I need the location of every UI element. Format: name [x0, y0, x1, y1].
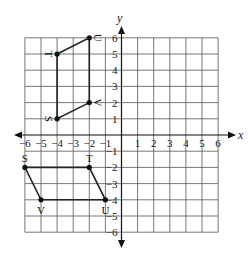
y-tick-label: 5 [112, 48, 118, 60]
x-tick-label: −2 [83, 137, 95, 149]
y-tick-label: −2 [106, 161, 118, 173]
x-axis-label: x [237, 128, 244, 142]
y-axis-label: y [116, 11, 123, 25]
vertex-point [103, 197, 108, 202]
y-axis-arrow-down-icon [118, 240, 125, 248]
vertex-label-S: S [22, 152, 28, 164]
vertex-point [87, 165, 92, 170]
coordinate-plane: x y −6−5−4−3−2−1123456654321−1−2−3−4−5−6… [0, 0, 251, 263]
x-tick-label: 4 [183, 137, 189, 149]
y-tick-label: 4 [112, 64, 118, 76]
vertex-point [38, 197, 43, 202]
y-tick-label: −3 [106, 178, 118, 190]
vertex-point [87, 100, 92, 105]
y-tick-label: −6 [106, 226, 118, 238]
y-tick-label: −1 [106, 145, 118, 157]
vertex-label-T: T [43, 51, 55, 58]
vertex-point [22, 165, 27, 170]
vertex-label-U: U [101, 204, 109, 216]
x-tick-label: −3 [67, 137, 79, 149]
vertex-point [87, 35, 92, 40]
x-axis-arrow-right-icon [228, 132, 236, 139]
x-tick-label: 1 [135, 137, 141, 149]
x-tick-label: 6 [215, 137, 221, 149]
x-tick-label: 3 [167, 137, 173, 149]
x-tick-label: −6 [19, 137, 31, 149]
vertex-label-V: V [92, 99, 104, 107]
x-tick-label: 5 [199, 137, 205, 149]
vertex-label-V: V [37, 204, 45, 216]
y-tick-label: 2 [112, 97, 118, 109]
x-tick-label: −5 [35, 137, 47, 149]
vertex-label-U: U [92, 34, 104, 42]
x-tick-label: 2 [151, 137, 157, 149]
vertex-label-S: S [43, 116, 55, 122]
upper-parallelogram: STUV [43, 34, 104, 122]
y-tick-label: 1 [112, 113, 118, 125]
lower-parallelogram: STUV [22, 152, 110, 215]
y-axis-arrow-up-icon [118, 26, 125, 34]
y-tick-label: 6 [112, 32, 118, 44]
y-tick-label: 3 [112, 80, 118, 92]
vertex-label-T: T [86, 152, 93, 164]
figures: STUVSTUV [22, 34, 110, 216]
x-tick-label: −4 [51, 137, 63, 149]
